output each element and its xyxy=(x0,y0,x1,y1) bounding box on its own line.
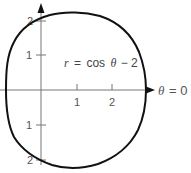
axis-equals-zero: = 0 xyxy=(169,83,187,98)
polar-axis-arrow-icon xyxy=(146,87,155,94)
axis-theta: θ xyxy=(158,83,165,98)
curve-equation-label: r = cos θ − 2 xyxy=(64,56,138,70)
y-tick-label-up-1: 1 xyxy=(26,49,32,61)
vertical-axis-arrow-icon xyxy=(38,3,45,13)
eq-theta: θ xyxy=(110,56,116,70)
polar-curve-figure: 1 2 1 2 1 2 r = cos θ − 2 θ = 0 xyxy=(0,0,191,173)
y-tick-label-down-1: 1 xyxy=(26,119,32,131)
eq-r: r xyxy=(64,56,69,70)
eq-cos: cos xyxy=(86,56,105,70)
x-tick-label-2: 2 xyxy=(109,96,115,108)
x-tick-label-1: 1 xyxy=(74,96,80,108)
eq-equals: = xyxy=(74,56,81,70)
polar-axis-label: θ = 0 xyxy=(158,83,187,98)
eq-minus-two: − 2 xyxy=(121,56,138,70)
